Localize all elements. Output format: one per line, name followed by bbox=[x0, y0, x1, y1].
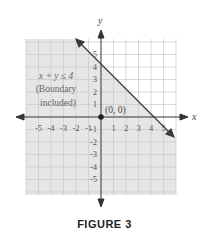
svg-text:-1: -1 bbox=[90, 124, 97, 134]
x-axis-label: x bbox=[191, 111, 197, 122]
test-point-label: (0, 0) bbox=[105, 105, 126, 116]
svg-text:-5: -5 bbox=[35, 123, 42, 133]
svg-text:2: 2 bbox=[93, 87, 97, 97]
svg-text:2: 2 bbox=[124, 123, 128, 133]
x-axis-left-arrow-icon bbox=[16, 114, 24, 120]
svg-text:-3: -3 bbox=[90, 149, 97, 159]
boundary-note-line2: included) bbox=[40, 98, 76, 109]
y-axis-label: y bbox=[97, 15, 103, 26]
svg-text:3: 3 bbox=[93, 74, 97, 84]
figure-caption: FIGURE 3 bbox=[0, 218, 209, 230]
boundary-note-line1: (Boundary bbox=[36, 84, 77, 95]
svg-text:1: 1 bbox=[93, 99, 97, 109]
svg-text:5: 5 bbox=[161, 123, 165, 133]
x-axis-right-arrow-icon bbox=[180, 114, 188, 120]
svg-text:-4: -4 bbox=[90, 162, 98, 172]
origin-point bbox=[98, 114, 104, 120]
svg-text:-5: -5 bbox=[90, 174, 97, 184]
svg-text:-4: -4 bbox=[47, 123, 55, 133]
svg-text:-2: -2 bbox=[90, 137, 97, 147]
svg-text:3: 3 bbox=[136, 123, 140, 133]
svg-text:-3: -3 bbox=[60, 123, 67, 133]
svg-text:-2: -2 bbox=[72, 123, 79, 133]
y-axis-up-arrow-icon bbox=[98, 30, 104, 38]
y-axis-down-arrow-icon bbox=[98, 199, 104, 207]
svg-text:5: 5 bbox=[93, 49, 97, 59]
graph: x y -5 -4 -3 -2 -1 1 2 3 4 5 5 4 3 2 1 -… bbox=[0, 0, 209, 235]
inequality-label: x + y ≤ 4 bbox=[38, 71, 74, 81]
svg-text:1: 1 bbox=[111, 123, 115, 133]
